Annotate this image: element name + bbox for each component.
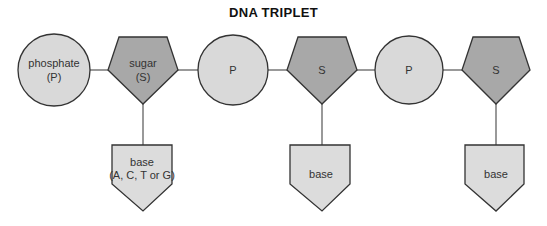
sugar-abbrev: (S): [136, 71, 151, 83]
base-options: (A, C, T or G): [109, 169, 175, 181]
phosphate-node-2: P: [198, 35, 268, 105]
base-label: base: [484, 168, 508, 180]
sugar-label: S: [318, 64, 325, 76]
base-label: base: [130, 156, 154, 168]
base-node-2: base: [290, 145, 350, 211]
base-node-3: base: [465, 145, 524, 211]
sugar-label: sugar: [129, 57, 157, 69]
base-node-1: base (A, C, T or G): [109, 145, 175, 211]
phosphate-label: P: [229, 64, 236, 76]
sugar-label: S: [492, 64, 499, 76]
phosphate-label: P: [405, 64, 412, 76]
phosphate-node-3: P: [375, 36, 443, 104]
dna-triplet-diagram: phosphate (P) sugar (S) P S P S base (A,…: [0, 0, 547, 226]
sugar-node-2: S: [287, 37, 357, 104]
phosphate-abbrev: (P): [47, 71, 62, 83]
sugar-node-3: S: [462, 37, 530, 104]
phosphate-label: phosphate: [28, 57, 79, 69]
base-connectors: [143, 104, 496, 145]
base-label: base: [309, 168, 333, 180]
sugar-node-1: sugar (S): [108, 37, 178, 104]
phosphate-node-1: phosphate (P): [18, 34, 90, 106]
